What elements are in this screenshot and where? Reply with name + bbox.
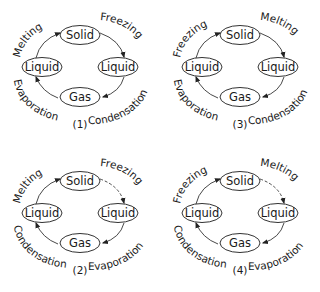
process-label-top-left: Melting (10, 166, 44, 205)
panel-number: (2) (73, 264, 88, 276)
node-gas-label: Gas (69, 90, 91, 104)
arrow-liquid-to-gas (103, 77, 124, 97)
arrow-solid-to-liquid (100, 33, 124, 57)
node-liquid-right-label: Liquid (261, 206, 296, 220)
arrow-gas-to-liquid (36, 77, 58, 98)
node-liquid-left-label: Liquid (185, 60, 220, 74)
process-label-bottom-left: Condensation (12, 224, 68, 270)
arrow-gas-to-liquid (36, 223, 58, 244)
panel-number: (4) (233, 264, 248, 276)
arrow-gas-to-liquid (196, 223, 218, 244)
node-solid-label: Solid (66, 28, 94, 42)
process-label-top-left: Melting (10, 20, 44, 59)
arrow-solid-to-liquid (260, 33, 284, 57)
node-solid-label: Solid (66, 174, 94, 188)
arrow-liquid-to-solid (196, 33, 220, 58)
panel-4: Solid Liquid Liquid Gas Freezing Melting… (170, 156, 305, 276)
arrow-liquid-to-solid (36, 33, 60, 58)
node-liquid-left-label: Liquid (25, 60, 60, 74)
arrow-liquid-to-solid (196, 179, 220, 204)
panel-2: Solid Liquid Liquid Gas Melting Freezing… (10, 156, 146, 276)
node-liquid-right-label: Liquid (261, 60, 296, 74)
arrow-liquid-to-gas (103, 223, 124, 243)
process-label-top-left: Freezing (170, 17, 208, 59)
node-liquid-right-label: Liquid (101, 60, 136, 74)
node-liquid-right-label: Liquid (101, 206, 136, 220)
process-label-bottom-left: Evaporation (12, 78, 60, 123)
panel-1: Solid Liquid Liquid Gas Melting Freezing… (10, 10, 149, 130)
arrow-solid-to-liquid (260, 179, 284, 203)
node-gas-label: Gas (229, 90, 251, 104)
arrow-solid-to-liquid (100, 179, 124, 203)
process-label-top-left: Freezing (170, 163, 208, 205)
node-solid-label: Solid (226, 28, 254, 42)
panel-number: (1) (73, 118, 88, 130)
phase-change-diagram: Solid Liquid Liquid Gas Melting Freezing… (0, 0, 320, 292)
process-label-bottom-left: Evaporation (172, 78, 220, 123)
panel-3: Solid Liquid Liquid Gas Freezing Melting… (170, 10, 309, 130)
node-gas-label: Gas (69, 236, 91, 250)
node-liquid-left-label: Liquid (185, 206, 220, 220)
process-label-top-right: Melting (260, 10, 302, 37)
node-gas-label: Gas (229, 236, 251, 250)
process-label-top-right: Melting (260, 156, 302, 183)
process-label-bottom-left: Condensation (172, 224, 228, 270)
arrow-liquid-to-solid (36, 179, 60, 204)
arrow-gas-to-liquid (196, 77, 218, 98)
arrow-liquid-to-gas (263, 223, 284, 243)
node-liquid-left-label: Liquid (25, 206, 60, 220)
arrow-liquid-to-gas (263, 77, 284, 97)
panel-number: (3) (233, 118, 248, 130)
node-solid-label: Solid (226, 174, 254, 188)
